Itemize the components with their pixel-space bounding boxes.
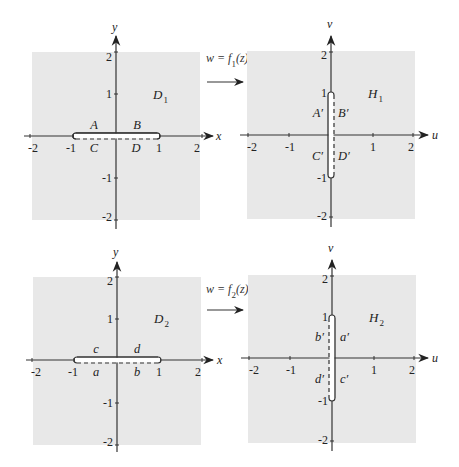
slit-label-top-right: B — [133, 118, 141, 132]
u-axis-label: u — [432, 128, 438, 142]
tick-label: 2 — [107, 274, 113, 288]
tick-label: 1 — [106, 87, 112, 101]
tick-label: 1 — [156, 365, 162, 379]
x-axis-label: x — [216, 353, 223, 367]
slit-label-top-left: c — [93, 342, 99, 356]
tick-label: 1 — [322, 310, 328, 324]
tick-label: -1 — [68, 365, 78, 379]
slit — [73, 133, 160, 139]
slit-label-lower-left: d′ — [315, 372, 324, 386]
v-axis-label: v — [328, 241, 334, 255]
slit-label-upper-left: b′ — [315, 330, 324, 344]
tick-label: -1 — [103, 396, 113, 410]
x-axis-label: x — [215, 129, 222, 143]
tick-label: 2 — [408, 140, 414, 154]
tick-label: 2 — [409, 363, 415, 377]
slit-label-top-right: d — [134, 342, 141, 356]
tick-label: 2 — [321, 48, 327, 62]
tick-label: 1 — [321, 86, 327, 100]
tick-label: 1 — [370, 140, 376, 154]
tick-label: -1 — [66, 141, 76, 155]
tick-label: -2 — [318, 433, 328, 447]
slit — [74, 357, 161, 363]
tick-label: -2 — [249, 363, 259, 377]
tick-label: -1 — [285, 140, 295, 154]
tick-label: -2 — [317, 209, 327, 223]
slit-label-top-left: A — [89, 118, 98, 132]
mapping-label: w = f2(z) — [206, 282, 249, 300]
u-axis-label: u — [432, 351, 438, 365]
tick-label: 1 — [371, 363, 377, 377]
slit-label-bottom-left: C — [90, 141, 99, 155]
slit-label-upper-right: B′ — [338, 106, 349, 120]
tick-label: -2 — [103, 435, 113, 449]
tick-label: 2 — [322, 272, 328, 286]
tick-label: -1 — [318, 394, 328, 408]
tick-label: -1 — [317, 171, 327, 185]
tick-label: 2 — [194, 141, 200, 155]
slit-label-bottom-left: a — [93, 365, 99, 379]
slit-label-lower-right: D′ — [337, 149, 350, 163]
v-axis-label: v — [327, 17, 333, 31]
slit-label-bottom-right: b — [134, 365, 140, 379]
tick-label: -2 — [28, 141, 38, 155]
conformal-mapping-diagram: x y -2 -1 1 2 2 1 -1 -2 A B C D — [0, 0, 459, 467]
panel-h1: u v -2 -1 1 2 2 1 -1 -2 A′ B′ C′ D′ H1 — [240, 17, 438, 227]
slit — [329, 315, 335, 401]
y-axis-label: y — [112, 245, 119, 259]
slit — [328, 92, 334, 178]
tick-label: 2 — [106, 50, 112, 64]
mapping-label: w = f1(z) — [206, 51, 249, 69]
tick-label: -1 — [286, 363, 296, 377]
panel-d2: x y -2 -1 1 2 2 1 -1 -2 c d a b D2 — [26, 245, 223, 452]
slit-label-upper-left: A′ — [312, 106, 324, 120]
tick-label: -2 — [31, 365, 41, 379]
tick-label: 1 — [156, 141, 162, 155]
slit-label-lower-right: c′ — [340, 372, 349, 386]
tick-label: 1 — [107, 312, 113, 326]
slit-label-lower-left: C′ — [312, 149, 323, 163]
mapping-f1: w = f1(z) — [206, 51, 249, 82]
panel-h2: u v -2 -1 1 2 2 1 -1 -2 b′ a′ d′ c′ H2 — [241, 241, 438, 451]
slit-label-bottom-right: D — [130, 141, 140, 155]
tick-label: -1 — [102, 171, 112, 185]
tick-label: 2 — [195, 365, 201, 379]
mapping-f2: w = f2(z) — [206, 282, 249, 310]
tick-label: -2 — [102, 210, 112, 224]
panel-d1: x y -2 -1 1 2 2 1 -1 -2 A B C D — [24, 20, 222, 229]
y-axis-label: y — [111, 20, 118, 34]
slit-label-upper-right: a′ — [340, 330, 349, 344]
tick-label: -2 — [247, 140, 257, 154]
